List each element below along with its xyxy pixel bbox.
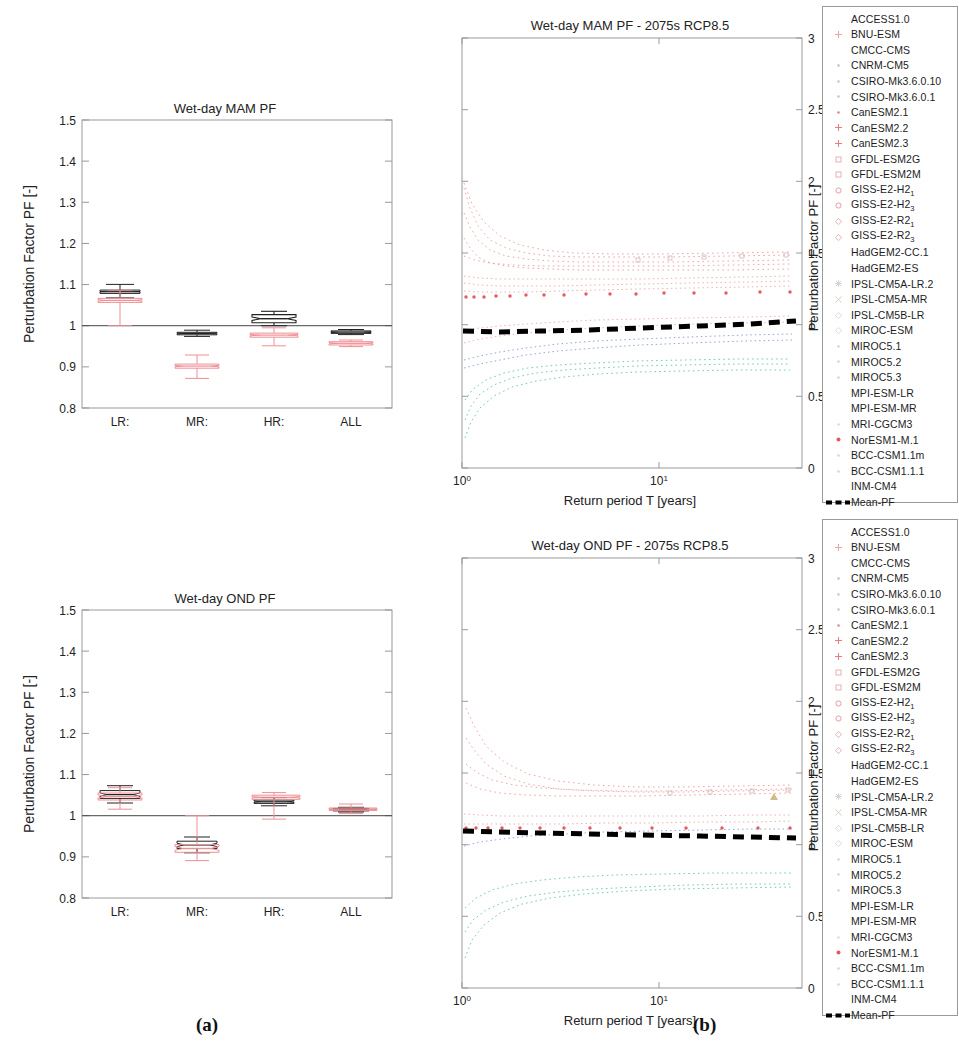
- legend-item[interactable]: MRI-CGCM3: [825, 416, 955, 432]
- legend-item[interactable]: HadGEM2-ES: [825, 774, 955, 790]
- legend-item[interactable]: CanESM2.1: [825, 105, 955, 121]
- dot-marker-icon: [825, 886, 851, 895]
- legend-item[interactable]: IPSL-CM5B-LR: [825, 307, 955, 323]
- legend-item[interactable]: BCC-CSM1.1m: [825, 961, 955, 977]
- dot-marker-icon: [825, 357, 851, 366]
- xtick-label: MR:: [186, 415, 208, 429]
- legend-item-label: GISS-E2-R21: [851, 215, 915, 229]
- legend-item-label: IPSL-CM5A-MR: [851, 807, 927, 818]
- legend-item[interactable]: GISS-E2-H23: [825, 198, 955, 214]
- legend-item[interactable]: BCC-CSM1.1.1: [825, 463, 955, 479]
- legend-item[interactable]: ACCESS1.0: [825, 11, 955, 27]
- legend-item[interactable]: GFDL-ESM2G: [825, 664, 955, 680]
- legend-item-label: GISS-E2-H21: [851, 184, 915, 198]
- xtick-label: LR:: [111, 905, 130, 919]
- xtick-label: ALL: [340, 415, 362, 429]
- legend-item[interactable]: NorESM1-M.1: [825, 945, 955, 961]
- legend-item[interactable]: MIROC-ESM: [825, 323, 955, 339]
- legend-item[interactable]: MIROC5.1: [825, 338, 955, 354]
- legend-item[interactable]: MIROC-ESM: [825, 836, 955, 852]
- none-marker-icon: [825, 404, 851, 413]
- legend-item[interactable]: HadGEM2-ES: [825, 261, 955, 277]
- legend-item[interactable]: CNRM-CM5: [825, 58, 955, 74]
- legend-item[interactable]: NorESM1-M.1: [825, 432, 955, 448]
- legend-item[interactable]: CSIRO-Mk3.6.0.10: [825, 586, 955, 602]
- legend-item[interactable]: GFDL-ESM2M: [825, 167, 955, 183]
- legend-item[interactable]: MIROC5.2: [825, 867, 955, 883]
- legend-item[interactable]: CanESM2.2: [825, 120, 955, 136]
- legend-mean-pf-label: Mean-PF: [851, 1010, 895, 1021]
- legend-item[interactable]: MPI-ESM-MR: [825, 914, 955, 930]
- boxplot-mam-frame: [82, 120, 392, 408]
- legend-item[interactable]: HadGEM2-CC.1: [825, 758, 955, 774]
- ytick-label: 0.8: [59, 402, 76, 416]
- none-marker-icon: [825, 527, 851, 536]
- legend-item[interactable]: MRI-CGCM3: [825, 929, 955, 945]
- legend-item[interactable]: CanESM2.3: [825, 136, 955, 152]
- ytick-label: 1.2: [59, 727, 76, 741]
- legend-item[interactable]: MPI-ESM-MR: [825, 401, 955, 417]
- diamond-marker-icon: [825, 326, 851, 335]
- legend-item[interactable]: GISS-E2-R21: [825, 727, 955, 743]
- dot-marker-icon: [825, 451, 851, 460]
- legend-item[interactable]: GISS-E2-R21: [825, 214, 955, 230]
- legend-item[interactable]: IPSL-CM5B-LR: [825, 820, 955, 836]
- legend-item[interactable]: GISS-E2-H21: [825, 696, 955, 712]
- legend-item[interactable]: CMCC-CMS: [825, 555, 955, 571]
- legend-item[interactable]: BCC-CSM1.1m: [825, 448, 955, 464]
- legend-item[interactable]: CSIRO-Mk3.6.0.10: [825, 73, 955, 89]
- legend-item[interactable]: CSIRO-Mk3.6.0.1: [825, 89, 955, 105]
- legend-item[interactable]: BNU-ESM: [825, 27, 955, 43]
- legend-item[interactable]: GISS-E2-H21: [825, 183, 955, 199]
- legend-item[interactable]: GFDL-ESM2M: [825, 680, 955, 696]
- legend-item[interactable]: ACCESS1.0: [825, 524, 955, 540]
- ytick-label: 1: [69, 319, 76, 333]
- legend-item-label: MPI-ESM-LR: [851, 901, 914, 912]
- none-marker-icon: [825, 14, 851, 23]
- legend-item-label: GFDL-ESM2M: [851, 169, 921, 180]
- legend-item-label: CSIRO-Mk3.6.0.1: [851, 605, 935, 616]
- scatter-mam-frame: [462, 38, 802, 468]
- diamond-marker-icon: [825, 730, 851, 739]
- legend-item[interactable]: MPI-ESM-LR: [825, 385, 955, 401]
- legend-item[interactable]: MIROC5.2: [825, 354, 955, 370]
- legend-item[interactable]: MIROC5.1: [825, 851, 955, 867]
- scatter-ond-ylabel: Perturbation Factor PF [-]: [806, 705, 821, 852]
- legend-item[interactable]: INM-CM4: [825, 479, 955, 495]
- legend-item[interactable]: CanESM2.3: [825, 649, 955, 665]
- scatter-ond-title: Wet-day OND PF - 2075s RCP8.5: [532, 538, 729, 553]
- legend-item[interactable]: MPI-ESM-LR: [825, 898, 955, 914]
- legend-item[interactable]: MIROC5.3: [825, 370, 955, 386]
- legend-item-label: MIROC5.3: [851, 372, 901, 383]
- ytick-label: 0.9: [59, 850, 76, 864]
- legend-item-mean-pf[interactable]: Mean-PF: [825, 1007, 955, 1023]
- boxplot-ond-frame: [82, 610, 392, 898]
- legend-item[interactable]: BCC-CSM1.1.1: [825, 976, 955, 992]
- legend-item[interactable]: GISS-E2-R23: [825, 229, 955, 245]
- legend-item[interactable]: HadGEM2-CC.1: [825, 245, 955, 261]
- legend-item[interactable]: IPSL-CM5A-LR.2: [825, 276, 955, 292]
- legend-item[interactable]: GISS-E2-H23: [825, 711, 955, 727]
- legend-item[interactable]: CanESM2.2: [825, 633, 955, 649]
- legend-item[interactable]: GISS-E2-R23: [825, 742, 955, 758]
- dot-marker-icon: [825, 108, 851, 117]
- legend-item[interactable]: CMCC-CMS: [825, 42, 955, 58]
- legend-item[interactable]: CSIRO-Mk3.6.0.1: [825, 602, 955, 618]
- legend-item[interactable]: GFDL-ESM2G: [825, 151, 955, 167]
- legend-item[interactable]: MIROC5.3: [825, 883, 955, 899]
- legend-item-mean-pf[interactable]: Mean-PF: [825, 494, 955, 510]
- legend-item-label: CanESM2.3: [851, 138, 909, 149]
- legend-item-label: CSIRO-Mk3.6.0.1: [851, 92, 935, 103]
- legend-item[interactable]: CanESM2.1: [825, 618, 955, 634]
- legend-item[interactable]: INM-CM4: [825, 992, 955, 1008]
- legend-item[interactable]: IPSL-CM5A-MR: [825, 805, 955, 821]
- xtick-label-10e1: 101: [650, 994, 668, 1008]
- legend-item-label: GISS-E2-R21: [851, 728, 915, 742]
- dashed-line-icon: [825, 498, 851, 507]
- legend-item[interactable]: CNRM-CM5: [825, 571, 955, 587]
- legend-item[interactable]: BNU-ESM: [825, 540, 955, 556]
- legend-item[interactable]: IPSL-CM5A-MR: [825, 292, 955, 308]
- legend-item[interactable]: IPSL-CM5A-LR.2: [825, 789, 955, 805]
- legend-item-label: HadGEM2-ES: [851, 263, 919, 274]
- legend-item-label: IPSL-CM5B-LR: [851, 310, 925, 321]
